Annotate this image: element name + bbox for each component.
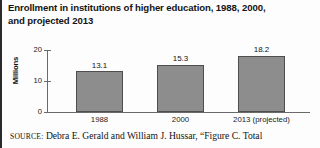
y-tick-label-10: 10 xyxy=(2,77,42,85)
bar-1988[interactable] xyxy=(76,71,123,112)
figure-title: Enrollment in institutions of higher edu… xyxy=(8,1,308,27)
source-label: SOURCE: xyxy=(10,132,43,141)
figure-title-line-2: and projected 2013 xyxy=(8,14,308,27)
y-tick-mark-10 xyxy=(44,81,51,82)
bar-chart: Millions 20 10 0 13.1 1988 15.3 2000 18.… xyxy=(0,38,320,128)
figure-title-line-1: Enrollment in institutions of higher edu… xyxy=(8,1,308,14)
y-tick-label-20: 20 xyxy=(2,46,42,54)
x-category-label-2013-projected: 2013 (projected) xyxy=(218,115,305,124)
bar-2013-projected[interactable] xyxy=(238,56,285,112)
bar-value-2013-projected: 18.2 xyxy=(228,45,295,54)
figure-container: Enrollment in institutions of higher edu… xyxy=(0,0,320,148)
y-tick-mark-0 xyxy=(44,112,51,113)
source-note: SOURCE: Debra E. Gerald and William J. H… xyxy=(10,130,318,143)
y-axis-title: Millions xyxy=(11,48,20,94)
y-tick-mark-20 xyxy=(44,50,51,51)
x-category-label-1988: 1988 xyxy=(66,115,133,124)
y-tick-label-20-wrap: 20 xyxy=(0,46,42,54)
bar-value-1988: 13.1 xyxy=(66,61,133,70)
y-tick-label-0: 0 xyxy=(2,108,42,116)
bar-2000[interactable] xyxy=(157,65,204,112)
y-tick-label-0-wrap: 0 xyxy=(0,108,42,116)
source-text: Debra E. Gerald and William J. Hussar, “… xyxy=(43,130,262,141)
y-tick-label-10-wrap: 10 xyxy=(0,77,42,85)
x-category-label-2000: 2000 xyxy=(147,115,214,124)
bar-value-2000: 15.3 xyxy=(147,54,214,63)
x-axis-line xyxy=(47,112,310,113)
